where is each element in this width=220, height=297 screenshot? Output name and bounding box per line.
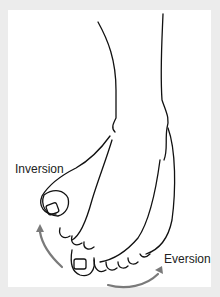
inversion-arrowhead-icon: [36, 224, 44, 232]
eversion-arrow: [108, 274, 158, 287]
eversion-label: Eversion: [164, 252, 211, 266]
eversion-arrowhead-icon: [155, 266, 163, 274]
inversion-label: Inversion: [15, 162, 64, 176]
inversion-arrow: [40, 232, 62, 267]
